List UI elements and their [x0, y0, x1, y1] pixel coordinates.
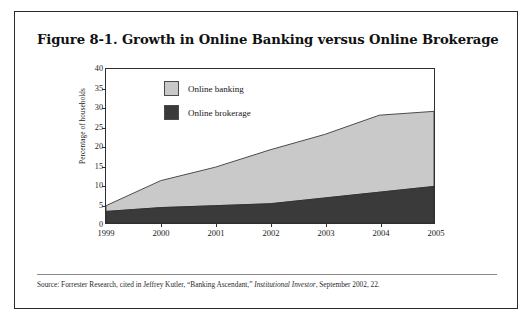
x-tick-mark-2004	[381, 223, 382, 227]
y-tick-mark-25	[102, 128, 107, 129]
x-tick-label-2001: 2001	[207, 228, 224, 238]
y-tick-mark-10	[102, 186, 107, 187]
x-tick-label-2000: 2000	[152, 228, 169, 238]
x-tick-label-2004: 2004	[372, 228, 389, 238]
legend-swatch-online-banking	[164, 81, 179, 96]
x-tick-label-1999: 1999	[97, 228, 114, 238]
y-tick-mark-35	[102, 89, 107, 90]
legend-item-online-banking: Online banking	[164, 81, 251, 96]
source-divider	[37, 274, 497, 275]
x-tick-label-2005: 2005	[427, 228, 444, 238]
y-tick-mark-15	[102, 167, 107, 168]
source-prefix: Source: Forrester Research, cited in Jef…	[37, 280, 254, 289]
x-tick-mark-2000	[161, 223, 162, 227]
x-tick-label-2002: 2002	[262, 228, 279, 238]
chart-area: Percentage of households 051015202530354…	[67, 64, 487, 259]
source-suffix: , September 2002, 22.	[316, 280, 380, 289]
y-tick-mark-30	[102, 108, 107, 109]
y-tick-mark-20	[102, 147, 107, 148]
figure-title: Figure 8-1. Growth in Online Banking ver…	[37, 32, 487, 47]
legend-swatch-online-brokerage	[164, 105, 179, 120]
legend-label-online-brokerage: Online brokerage	[188, 108, 251, 118]
legend-label-online-banking: Online banking	[188, 84, 244, 94]
x-tick-mark-2003	[326, 223, 327, 227]
stacked-area-series	[106, 69, 434, 223]
y-tick-label-40: 40	[95, 65, 103, 73]
x-tick-mark-2002	[271, 223, 272, 227]
legend-item-online-brokerage: Online brokerage	[164, 105, 251, 120]
figure-card: Figure 8-1. Growth in Online Banking ver…	[14, 11, 518, 309]
source-publication: Institutional Investor	[254, 280, 315, 289]
source-note: Source: Forrester Research, cited in Jef…	[37, 280, 499, 289]
x-tick-mark-2001	[216, 223, 217, 227]
y-axis-label: Percentage of households	[79, 66, 87, 186]
y-tick-mark-5	[102, 206, 107, 207]
x-tick-label-2003: 2003	[317, 228, 334, 238]
chart-legend: Online banking Online brokerage	[164, 81, 251, 129]
plot-frame: 0510152025303540 19992000200120022003200…	[105, 68, 435, 224]
